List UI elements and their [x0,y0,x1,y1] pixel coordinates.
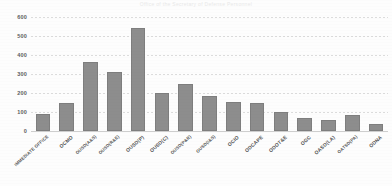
x-tick-label: OUSD(I&S) [194,134,216,155]
x-tick-label: OUSD(P&R) [169,134,193,156]
x-tick-label: ODNA [368,134,383,149]
bar [131,28,146,131]
y-tick-label: 400 [5,52,27,58]
bar [250,103,265,132]
x-tick-label: OGC [299,134,312,146]
y-tick-label: 100 [5,109,27,115]
bar [226,102,241,131]
bar [178,84,193,131]
bar [345,115,360,131]
bar [155,93,170,131]
x-tick-label: OUSD(P) [125,134,145,153]
y-tick-label: 300 [5,71,27,77]
bar [297,118,312,131]
y-axis: 0100200300400500600 [0,17,27,131]
bar [107,72,122,131]
y-tick-label: 500 [5,33,27,39]
bar-series [31,17,388,131]
x-tick-label: ODCAPE [244,134,265,153]
x-tick-label: OASD(LA) [312,134,335,156]
y-tick-label: 200 [5,90,27,96]
x-tick-label: OUSD(R&E) [98,134,122,156]
bar [369,124,384,131]
y-tick-label: 600 [5,14,27,20]
x-tick-label: ODOT&E [267,134,288,153]
chart-title: Office of the Secretary of Defense Perso… [0,0,392,8]
x-tick-label: OCIO [226,134,240,147]
bar [202,96,217,131]
bar [59,103,74,132]
y-tick-label: 0 [5,128,27,134]
x-tick-label: OUSD(A&S) [74,134,98,156]
x-tick-label: OUSD(C) [148,134,169,153]
bar [321,120,336,131]
bar-chart: Office of the Secretary of Defense Perso… [0,0,392,186]
bar [274,112,289,131]
x-axis: IMMEDIATE OFFICEOCMOOUSD(A&S)OUSD(R&E)OU… [31,131,388,186]
bar [83,62,98,131]
x-tick-label: OCMO [58,134,74,149]
bar [36,114,51,131]
x-tick-label: IMMEDIATE OFFICE [13,134,50,168]
x-tick-label: OATSD(PA) [337,134,360,155]
